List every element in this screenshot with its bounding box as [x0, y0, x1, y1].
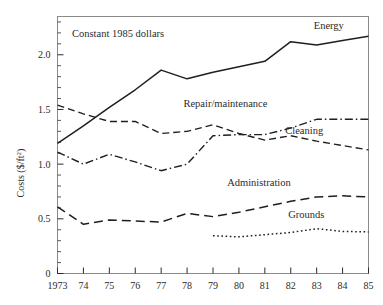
x-tick-label: 1973 — [48, 280, 68, 291]
chart-container: 00.51.01.52.0 19737475767778798081828384… — [0, 0, 383, 305]
y-axis-title: Costs ($/ft2) — [15, 149, 27, 198]
y-tick-label: 2.0 — [38, 49, 51, 60]
series-label-grounds: Grounds — [288, 209, 324, 220]
series-label-energy: Energy — [314, 20, 345, 31]
x-tick-label: 75 — [104, 280, 114, 291]
y-tick-label: 0 — [46, 268, 51, 279]
y-tick-label: 0.5 — [38, 213, 51, 224]
x-tick-label: 77 — [156, 280, 166, 291]
x-tick-label: 76 — [130, 280, 140, 291]
x-tick-label: 81 — [260, 280, 270, 291]
y-tick-label: 1.0 — [38, 159, 51, 170]
x-tick-label: 82 — [286, 280, 296, 291]
series-label-administration: Administration — [227, 177, 291, 188]
x-tick-label: 85 — [364, 280, 374, 291]
series-label-cleaning: Cleaning — [285, 125, 324, 136]
x-tick-label: 80 — [234, 280, 244, 291]
x-tick-label: 84 — [338, 280, 348, 291]
y-tick-label: 1.5 — [38, 104, 51, 115]
x-tick-label: 79 — [208, 280, 218, 291]
y-axis-title-base: Costs ($/ft — [15, 155, 27, 197]
y-axis-title-tail: ) — [15, 149, 27, 152]
x-tick-label: 83 — [312, 280, 322, 291]
chart-annotation: Constant 1985 dollars — [72, 28, 164, 39]
series-label-repair-maintenance: Repair/maintenance — [183, 98, 267, 109]
x-tick-label: 74 — [78, 280, 88, 291]
x-tick-label: 78 — [182, 280, 192, 291]
line-chart: 00.51.01.52.0 19737475767778798081828384… — [0, 0, 383, 305]
